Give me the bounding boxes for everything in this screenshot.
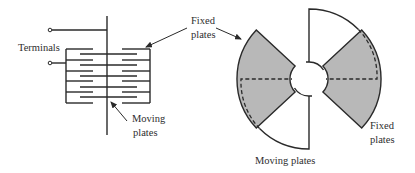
moving-plates-label-line2: plates xyxy=(133,127,158,138)
fixed-plates-arrow-right xyxy=(216,28,241,39)
fixed-plates-label-line2: plates xyxy=(191,29,216,40)
top-view-moving-plates-label: Moving plates xyxy=(255,155,315,166)
top-view-fixed-plates-label-line2: plates xyxy=(370,134,395,145)
terminal-bottom xyxy=(48,61,66,65)
top-view xyxy=(216,9,381,149)
terminal-top xyxy=(48,28,107,32)
variable-capacitor-diagram: Terminals Fixed plates Moving plates Mov… xyxy=(0,0,415,173)
terminals-label: Terminals xyxy=(18,42,60,53)
moving-plates-label-line1: Moving xyxy=(132,113,166,124)
top-view-fixed-plates-label-line1: Fixed xyxy=(370,120,395,131)
moving-plates-arrow xyxy=(111,102,127,121)
side-view xyxy=(48,16,187,135)
fixed-plates-arrow-left xyxy=(146,28,187,47)
fixed-plates-label-line1: Fixed xyxy=(191,15,216,26)
